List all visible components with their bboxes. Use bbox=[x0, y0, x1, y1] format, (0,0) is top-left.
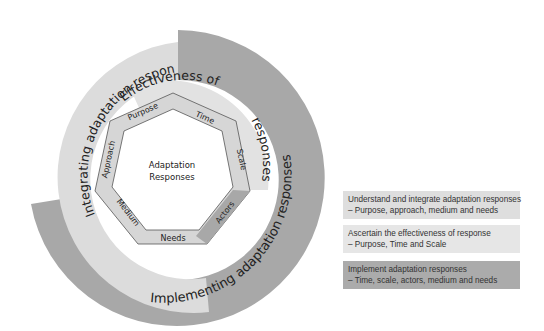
legend-integrate: Understand and integrate adaptation resp… bbox=[343, 191, 520, 219]
legend-implement: Implement adaptation responses – Time, s… bbox=[343, 261, 520, 289]
legend-implement-title: Implement adaptation responses bbox=[348, 264, 516, 275]
center-label-line1: Adaptation bbox=[149, 160, 196, 170]
legend-implement-detail: – Time, scale, actors, medium and needs bbox=[348, 275, 516, 286]
legend-effectiveness-detail: – Purpose, Time and Scale bbox=[348, 239, 516, 250]
legend-integrate-detail: – Purpose, approach, medium and needs bbox=[348, 205, 516, 216]
legend-integrate-title: Understand and integrate adaptation resp… bbox=[348, 194, 516, 205]
adaptation-diagram: Integrating adaptation responses Effecti… bbox=[0, 0, 340, 331]
legend-effectiveness: Ascertain the effectiveness of response … bbox=[343, 225, 520, 253]
legend-effectiveness-title: Ascertain the effectiveness of response bbox=[348, 228, 516, 239]
label-needs: Needs bbox=[160, 234, 185, 243]
center-label-line2: Responses bbox=[149, 172, 195, 182]
